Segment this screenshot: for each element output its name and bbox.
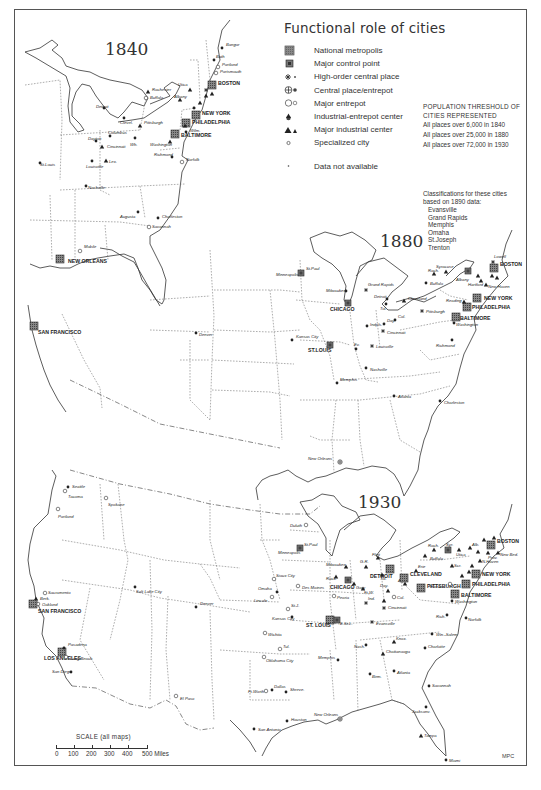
svg-text:Evansville: Evansville — [376, 621, 396, 626]
legend-item-data-not-available: Data not available — [284, 160, 403, 173]
svg-text:Day.: Day. — [380, 583, 388, 588]
svg-text:NEW YORK: NEW YORK — [484, 295, 513, 301]
legend-item-industrial-entrepot-center: Industrial-entrepot center — [284, 110, 403, 123]
svg-text:El Paso: El Paso — [180, 696, 195, 701]
svg-text:Seattle: Seattle — [72, 484, 86, 489]
svg-text:Cincinnati: Cincinnati — [387, 330, 406, 335]
svg-text:Ev.: Ev. — [354, 342, 360, 347]
svg-text:St.Paul: St.Paul — [306, 266, 321, 271]
national-metropolis-icon — [284, 45, 304, 57]
svg-text:San Diego: San Diego — [52, 669, 72, 674]
credit-label: MPC — [502, 753, 514, 759]
svg-text:DETROIT: DETROIT — [370, 573, 394, 579]
svg-text:Lowell: Lowell — [494, 254, 507, 259]
svg-text:Omaha: Omaha — [258, 586, 272, 591]
svg-text:CHICAGO: CHICAGO — [330, 584, 355, 590]
svg-text:Louisville: Louisville — [86, 164, 104, 169]
svg-text:Wh.: Wh. — [130, 142, 137, 147]
open-circle-icon — [284, 97, 304, 109]
svg-text:Dayton: Dayton — [88, 136, 102, 141]
legend-item-major-control-point: Major control point — [284, 57, 403, 70]
svg-text:Long Beach: Long Beach — [70, 656, 93, 661]
svg-text:N.Haven: N.Haven — [482, 559, 499, 564]
svg-text:Wilm.: Wilm. — [190, 128, 200, 133]
svg-text:Augusta: Augusta — [119, 214, 136, 219]
svg-text:E.St.L.: E.St.L. — [340, 621, 353, 626]
map-1930: 1930 Seattle Tacoma Spokane Portland Sac… — [28, 470, 519, 763]
svg-text:Milwaukee: Milwaukee — [326, 288, 346, 293]
svg-text:Charleston: Charleston — [444, 400, 465, 405]
svg-text:NEW ORLEANS: NEW ORLEANS — [68, 258, 107, 264]
svg-text:Col.: Col. — [397, 595, 404, 600]
svg-text:San Antonio: San Antonio — [258, 727, 281, 732]
svg-text:Pittsburgh: Pittsburgh — [144, 120, 164, 125]
svg-text:Charlotte: Charlotte — [428, 644, 446, 649]
svg-text:Memphis: Memphis — [318, 655, 336, 660]
triangle-circle-icon — [284, 111, 304, 123]
svg-text:BALTIMORE: BALTIMORE — [461, 592, 492, 598]
svg-text:Buffalo: Buffalo — [430, 281, 444, 286]
map-1880: 1880 CHICAGO ST.LOUIS NEW YORK PHILADELP… — [150, 230, 522, 500]
svg-text:Bangor: Bangor — [226, 42, 240, 47]
year-label-1880: 1880 — [380, 231, 423, 251]
svg-text:Washington: Washington — [455, 599, 478, 604]
svg-text:ST.LOUIS: ST.LOUIS — [308, 347, 332, 353]
svg-text:Spokane: Spokane — [108, 502, 125, 507]
svg-text:Minneapolis: Minneapolis — [276, 272, 299, 277]
svg-text:Knox.: Knox. — [396, 636, 407, 641]
svg-text:CHICAGO: CHICAGO — [330, 306, 355, 312]
svg-text:Utica: Utica — [178, 82, 188, 87]
svg-text:Savannah: Savannah — [432, 683, 452, 688]
legend-item-specialized-city: Specialized city — [284, 136, 403, 149]
svg-text:Tul.: Tul. — [283, 644, 290, 649]
svg-text:BALTIMORE: BALTIMORE — [460, 315, 491, 321]
svg-text:Tol.: Tol. — [380, 306, 387, 311]
svg-text:Pittsburgh: Pittsburgh — [426, 309, 446, 314]
svg-text:New Bed.: New Bed. — [500, 552, 518, 557]
svg-text:Berk.: Berk. — [40, 596, 50, 601]
svg-text:Oklahoma City: Oklahoma City — [266, 658, 294, 663]
svg-text:Cincinnati: Cincinnati — [388, 605, 407, 610]
threshold-1840: All places over 6,000 in 1840 — [423, 120, 520, 130]
year-label-1930: 1930 — [358, 492, 401, 512]
map-1840: 1840 NEW YORK PHILADELPHIA BALTIMORE BOS… — [25, 20, 280, 448]
svg-text:Atlanta: Atlanta — [396, 670, 411, 675]
svg-text:Atlanta: Atlanta — [397, 394, 412, 399]
svg-text:Grand Rapids: Grand Rapids — [368, 282, 395, 287]
svg-text:Kansas City: Kansas City — [272, 616, 295, 621]
svg-text:Peoria: Peoria — [337, 595, 350, 600]
svg-text:NEW YORK: NEW YORK — [202, 110, 231, 116]
svg-text:Scr.: Scr. — [454, 563, 461, 568]
svg-text:Norfolk: Norfolk — [186, 157, 200, 162]
svg-text:Des Moines: Des Moines — [302, 585, 325, 590]
svg-text:Denver: Denver — [200, 601, 214, 606]
svg-text:Reading: Reading — [446, 298, 462, 303]
classification-city-list: Evansville Grand Rapids Memphis Omaha St… — [423, 206, 507, 251]
svg-text:Syr.: Syr. — [446, 542, 453, 547]
svg-text:Milwaukee: Milwaukee — [326, 562, 346, 567]
svg-text:PHILADELPHIA: PHILADELPHIA — [472, 304, 511, 310]
legend-item-major-industrial-center: Major industrial center — [284, 123, 403, 136]
legend-item-high-order-central-place: High-order central place — [284, 70, 403, 83]
svg-text:Tacoma: Tacoma — [68, 494, 83, 499]
circled-asterisk-icon — [284, 84, 304, 96]
svg-text:Ft.W.: Ft.W. — [364, 590, 374, 595]
svg-text:NEW YORK: NEW YORK — [482, 571, 511, 577]
svg-text:BOSTON: BOSTON — [500, 261, 522, 267]
svg-text:Ft.Worth: Ft.Worth — [248, 689, 265, 694]
svg-text:Dallas: Dallas — [274, 684, 287, 689]
svg-text:Washington: Washington — [150, 142, 173, 147]
svg-text:PHILADELPHIA: PHILADELPHIA — [192, 119, 231, 125]
classification-note: Classifications for these cities based o… — [423, 190, 507, 251]
svg-text:BOSTON: BOSTON — [218, 80, 240, 86]
svg-text:Louisville: Louisville — [376, 344, 394, 349]
svg-text:Pasadena: Pasadena — [68, 642, 88, 647]
legend-item-national-metropolis: National metropolis — [284, 44, 403, 57]
svg-text:SAN FRANCISCO: SAN FRANCISCO — [38, 329, 81, 335]
svg-text:Col.: Col. — [398, 314, 405, 319]
svg-text:Savannah: Savannah — [152, 224, 172, 229]
scale-bar: SCALE (all maps) 0 100 200 300 400 500 M… — [56, 733, 148, 758]
svg-text:Rock.: Rock. — [326, 576, 337, 581]
legend-item-central-place-entrepot: Central place/entrepot — [284, 84, 403, 97]
population-threshold-note: POPULATION THRESHOLD OF CITIES REPRESENT… — [423, 102, 520, 150]
